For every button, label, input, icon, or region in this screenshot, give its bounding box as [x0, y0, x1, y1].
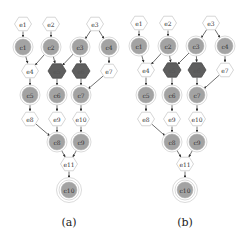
node-c2: c2 — [41, 37, 61, 57]
diagram-figure: e1e2e3c1c2c3c4e4e5e6e7c5c6c7e8e9e10c8c9e… — [0, 0, 250, 239]
node-label-e3: e3 — [91, 21, 99, 28]
node-label-c5: c5 — [142, 92, 149, 99]
edge-c2-e4 — [35, 54, 45, 65]
node-label-c4: c4 — [221, 43, 228, 50]
node-e4: e4 — [22, 64, 39, 78]
node-e1: e1 — [15, 17, 32, 31]
node-label-e2: e2 — [164, 20, 172, 27]
node-label-e3: e3 — [207, 20, 215, 27]
node-label-c6: c6 — [168, 92, 175, 99]
edge-e3-c4 — [99, 30, 104, 38]
node-e5: e5 — [48, 64, 66, 78]
node-e2: e2 — [160, 16, 177, 30]
node-label-c3: c3 — [192, 43, 199, 50]
edge-e8-c8 — [152, 124, 165, 136]
edges-panel-b — [139, 29, 225, 178]
node-c4: c4 — [215, 36, 235, 56]
node-e6: e6 — [72, 64, 90, 78]
node-c7: c7 — [71, 85, 91, 105]
node-label-e10: e10 — [75, 116, 86, 123]
panel-caption-b: (b) — [177, 216, 193, 229]
node-e3: e3 — [203, 16, 220, 30]
node-e9: e9 — [164, 112, 181, 126]
node-label-e1: e1 — [19, 21, 26, 28]
nodes-panel-b: e1e2e3c1c2c3c4e4e5e6e7c5c6c7e8e9e10c8c9e… — [129, 16, 235, 202]
node-e10: e10 — [73, 112, 90, 126]
node-c1: c1 — [13, 37, 33, 57]
node-c10: c10 — [173, 178, 198, 203]
node-c9: c9 — [71, 132, 91, 152]
edge-e7-c7 — [204, 75, 219, 89]
node-label-c9: c9 — [77, 139, 84, 146]
panel-b: e1e2e3c1c2c3c4e4e5e6e7c5c6c7e8e9e10c8c9e… — [129, 16, 235, 228]
panel-caption-a: (a) — [61, 216, 76, 229]
node-label-e11: e11 — [63, 161, 74, 168]
node-c9: c9 — [187, 132, 207, 152]
node-label-c9: c9 — [193, 139, 200, 146]
node-e3: e3 — [87, 17, 104, 31]
node-label-c6: c6 — [53, 92, 60, 99]
node-c8: c8 — [47, 132, 67, 152]
node-c2: c2 — [158, 36, 178, 56]
edge-e7-c7 — [88, 76, 103, 89]
edge-e3-c3 — [201, 29, 207, 38]
node-e7: e7 — [217, 63, 234, 77]
node-e11: e11 — [61, 157, 78, 171]
node-label-e4: e4 — [142, 67, 150, 74]
node-c5: c5 — [136, 85, 156, 105]
node-label-c10: c10 — [64, 187, 75, 194]
node-label-c8: c8 — [53, 139, 60, 146]
node-e10: e10 — [189, 112, 206, 126]
node-label-e7: e7 — [221, 67, 229, 74]
node-label-c7: c7 — [193, 92, 200, 99]
node-label-e11: e11 — [179, 161, 190, 168]
node-label-c1: c1 — [135, 43, 142, 50]
node-e1: e1 — [131, 16, 148, 30]
node-c3: c3 — [186, 36, 206, 56]
node-c10: c10 — [57, 178, 82, 203]
node-label-c8: c8 — [168, 139, 175, 146]
node-e8: e8 — [138, 112, 155, 126]
node-label-e7: e7 — [105, 68, 113, 75]
node-label-c2: c2 — [47, 44, 54, 51]
node-label-e6: e6 — [77, 68, 85, 75]
edge-e3-c4 — [215, 29, 220, 37]
node-c4: c4 — [99, 37, 119, 57]
node-e4: e4 — [138, 63, 155, 77]
node-c6: c6 — [47, 85, 67, 105]
edge-e8-c8 — [36, 124, 50, 136]
node-label-e1: e1 — [135, 20, 142, 27]
node-c1: c1 — [129, 36, 149, 56]
node-label-e8: e8 — [142, 116, 150, 123]
node-label-c2: c2 — [164, 43, 171, 50]
node-label-e8: e8 — [26, 116, 34, 123]
node-label-c10: c10 — [180, 187, 191, 194]
edge-c2-e4 — [151, 53, 162, 64]
node-label-e6: e6 — [193, 67, 201, 74]
node-label-c3: c3 — [76, 44, 83, 51]
node-label-e9: e9 — [168, 116, 176, 123]
node-label-e4: e4 — [26, 68, 34, 75]
node-c7: c7 — [187, 85, 207, 105]
node-label-e5: e5 — [168, 67, 176, 74]
node-label-c5: c5 — [26, 92, 33, 99]
node-label-c4: c4 — [105, 44, 112, 51]
node-c3: c3 — [70, 37, 90, 57]
node-label-e10: e10 — [191, 116, 202, 123]
panel-a: e1e2e3c1c2c3c4e4e5e6e7c5c6c7e8e9e10c8c9e… — [13, 17, 119, 228]
node-e9: e9 — [49, 112, 66, 126]
node-e5: e5 — [163, 63, 181, 77]
edge-e3-c3 — [85, 30, 91, 39]
node-e6: e6 — [188, 63, 206, 77]
node-c8: c8 — [162, 132, 182, 152]
node-label-c7: c7 — [77, 92, 84, 99]
node-c6: c6 — [162, 85, 182, 105]
node-c5: c5 — [20, 85, 40, 105]
edge-c3-e5 — [178, 52, 190, 64]
edges-panel-a — [23, 30, 109, 178]
node-e8: e8 — [22, 112, 39, 126]
node-label-c1: c1 — [19, 44, 26, 51]
node-label-e9: e9 — [53, 116, 61, 123]
edge-c3-e5 — [63, 53, 74, 65]
node-label-e2: e2 — [47, 21, 55, 28]
